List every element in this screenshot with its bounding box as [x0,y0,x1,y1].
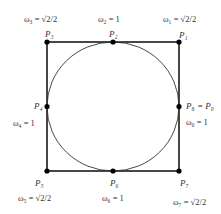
point-label-p6: P₆ [110,178,119,188]
point-p8 [176,104,181,109]
inscribed-circle [47,42,179,171]
weight-label-p2: ω₂ = 1 [98,14,120,24]
point-p4 [44,104,49,109]
control-polygon-square [47,42,179,171]
point-label-p1: P₁ [179,30,188,40]
weight-label-p8: ω₀ = 1 [186,117,208,127]
point-p6 [110,168,115,173]
point-label-p3: P₃ [45,29,54,39]
weight-label-p6: ω₆ = 1 [102,193,124,203]
weight-label-p7: ω₇ = √2/2 [173,197,206,207]
weight-label-p5: ω₅ = √2/2 [18,193,51,203]
point-label-p2: P₂ [109,29,118,39]
point-p1 [176,39,181,44]
point-p3 [44,39,49,44]
weight-label-p4: ω₄ = 1 [13,118,35,128]
point-label-p7: P₇ [180,178,189,188]
weight-label-p1: ω₁ = √2/2 [163,14,196,24]
point-label-p4: P₄ [34,101,43,111]
point-p2 [110,39,115,44]
point-label-p8: P₈ = P₀ [186,101,214,111]
point-p5 [44,168,49,173]
weight-label-p3: ω₃ = √2/2 [24,14,57,24]
point-label-p5: P₅ [35,178,44,188]
point-p7 [176,168,181,173]
